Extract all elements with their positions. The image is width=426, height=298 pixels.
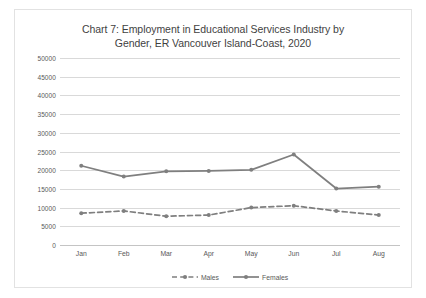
y-axis-tick-label: 0 xyxy=(52,242,56,249)
y-axis-tick-label: 25000 xyxy=(37,148,56,155)
data-point xyxy=(377,213,381,217)
data-point xyxy=(249,206,253,210)
y-axis-tick-label: 10000 xyxy=(37,204,56,211)
data-point xyxy=(334,209,338,213)
plot-area xyxy=(60,58,400,245)
data-point xyxy=(207,169,211,173)
series-females xyxy=(79,152,381,190)
x-axis-tick-label-feb: Feb xyxy=(118,250,130,257)
gridline-0 xyxy=(60,245,400,246)
legend-swatch-females-icon xyxy=(233,273,259,281)
series-males xyxy=(79,204,381,218)
y-axis-tick-label: 35000 xyxy=(37,111,56,118)
x-axis-tick-label-jul: Jul xyxy=(332,250,341,257)
data-point xyxy=(207,213,211,217)
x-axis-tick-label-jan: Jan xyxy=(76,250,87,257)
series-layer xyxy=(60,58,400,245)
y-axis-tick-label: 50000 xyxy=(37,55,56,62)
y-axis-tick-label: 45000 xyxy=(37,73,56,80)
legend-label: Females xyxy=(262,274,288,281)
y-axis-tick-label: 20000 xyxy=(37,167,56,174)
legend-label: Males xyxy=(201,274,219,281)
legend-item-males[interactable]: Males xyxy=(172,273,219,281)
x-axis: JanFebMarAprMayJunJulAug xyxy=(60,250,400,264)
x-axis-tick-label-may: May xyxy=(245,250,258,257)
chart-container: Chart 7: Employment in Educational Servi… xyxy=(14,9,412,288)
x-axis-tick-label-mar: Mar xyxy=(160,250,172,257)
data-point xyxy=(122,209,126,213)
x-axis-tick-label-jun: Jun xyxy=(288,250,299,257)
y-axis-tick-label: 15000 xyxy=(37,185,56,192)
chart-title: Chart 7: Employment in Educational Servi… xyxy=(45,22,381,50)
y-axis-tick-label: 40000 xyxy=(37,92,56,99)
data-point xyxy=(334,187,338,191)
data-point xyxy=(292,152,296,156)
data-point xyxy=(79,164,83,168)
chart-title-line-1: Chart 7: Employment in Educational Servi… xyxy=(45,22,381,36)
data-point xyxy=(122,175,126,179)
data-point xyxy=(377,185,381,189)
x-axis-tick-label-aug: Aug xyxy=(373,250,385,257)
legend-swatch-males-icon xyxy=(172,273,198,281)
chart-title-line-2: Gender, ER Vancouver Island-Coast, 2020 xyxy=(45,36,381,50)
y-axis-tick-label: 30000 xyxy=(37,129,56,136)
data-point xyxy=(164,214,168,218)
y-axis-tick-label: 5000 xyxy=(41,223,56,230)
legend-item-females[interactable]: Females xyxy=(233,273,288,281)
data-point xyxy=(164,169,168,173)
x-axis-tick-label-apr: Apr xyxy=(203,250,214,257)
data-point xyxy=(249,168,253,172)
data-point xyxy=(79,211,83,215)
line-females xyxy=(81,154,379,188)
y-axis: 5000045000400003500030000250002000015000… xyxy=(15,58,56,245)
chart-legend: MalesFemales xyxy=(60,273,400,281)
data-point xyxy=(292,204,296,208)
line-males xyxy=(81,206,379,216)
